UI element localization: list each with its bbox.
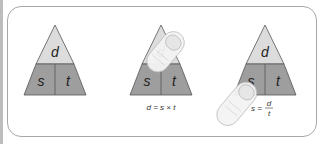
triangle-2: d s t bbox=[130, 25, 192, 95]
formula-s: s = d t bbox=[251, 99, 273, 118]
formula-d: d = s × t bbox=[147, 103, 177, 112]
svg-text:t: t bbox=[268, 109, 271, 118]
svg-text:s =: s = bbox=[251, 104, 262, 113]
label-s: s bbox=[144, 73, 151, 89]
label-s: s bbox=[38, 73, 45, 89]
svg-text:d: d bbox=[267, 99, 272, 108]
triangle-3: d s t bbox=[212, 25, 296, 130]
formula-triangles: d s t d s t d s t d = s bbox=[0, 0, 324, 144]
label-d: d bbox=[51, 44, 60, 60]
triangle-1: d s t bbox=[24, 25, 86, 95]
label-d: d bbox=[261, 44, 270, 60]
